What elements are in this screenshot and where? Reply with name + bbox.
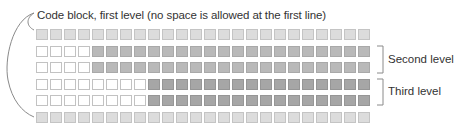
code-cell — [260, 29, 272, 40]
code-cell — [36, 29, 48, 40]
code-cell — [92, 112, 104, 123]
code-cell — [358, 46, 370, 57]
indent-cell — [36, 79, 48, 90]
code-cell — [176, 79, 188, 90]
code-cell — [148, 29, 160, 40]
code-cell — [120, 62, 132, 73]
code-cell — [344, 29, 356, 40]
indent-cell — [64, 95, 76, 106]
code-cell — [190, 95, 202, 106]
code-cell — [78, 112, 90, 123]
code-cell — [260, 112, 272, 123]
code-cell — [344, 95, 356, 106]
code-cell — [218, 62, 230, 73]
code-cell — [302, 79, 314, 90]
code-cell — [260, 79, 272, 90]
code-cell — [106, 46, 118, 57]
code-cell — [176, 46, 188, 57]
code-cell — [148, 112, 160, 123]
code-cell — [176, 95, 188, 106]
code-cell — [232, 112, 244, 123]
code-cell — [302, 112, 314, 123]
code-cell — [120, 46, 132, 57]
code-cell — [148, 46, 160, 57]
code-cell — [274, 46, 286, 57]
indent-cell — [106, 79, 118, 90]
code-cell — [344, 62, 356, 73]
second-level-label: Second level — [388, 53, 454, 65]
code-cell — [162, 112, 174, 123]
code-cell — [162, 29, 174, 40]
code-cell — [246, 79, 258, 90]
code-cell — [134, 46, 146, 57]
code-cell — [358, 79, 370, 90]
code-cell — [190, 79, 202, 90]
code-cell — [274, 79, 286, 90]
indent-cell — [134, 79, 146, 90]
code-cell — [330, 79, 342, 90]
third-level-bracket — [377, 79, 383, 105]
code-cell — [246, 112, 258, 123]
code-cell — [204, 112, 216, 123]
indent-cell — [64, 62, 76, 73]
indent-cell — [64, 46, 76, 57]
indent-cell — [36, 46, 48, 57]
code-cell — [302, 29, 314, 40]
code-cell — [260, 62, 272, 73]
code-cell — [176, 62, 188, 73]
code-cell — [288, 62, 300, 73]
code-cell — [316, 29, 328, 40]
code-cell — [218, 95, 230, 106]
code-cell — [204, 62, 216, 73]
code-cell — [204, 95, 216, 106]
code-cell — [302, 46, 314, 57]
indent-cell — [78, 79, 90, 90]
indent-cell — [50, 46, 62, 57]
code-cell — [288, 95, 300, 106]
code-cell — [218, 79, 230, 90]
code-cell — [358, 95, 370, 106]
code-cell — [78, 29, 90, 40]
code-cell — [204, 29, 216, 40]
code-cell — [330, 29, 342, 40]
code-cell — [106, 29, 118, 40]
row-third-level-2 — [36, 95, 372, 108]
code-cell — [330, 62, 342, 73]
indent-cell — [92, 79, 104, 90]
code-cell — [358, 112, 370, 123]
code-cell — [190, 112, 202, 123]
code-cell — [120, 29, 132, 40]
code-cell — [330, 46, 342, 57]
code-cell — [218, 112, 230, 123]
code-cell — [134, 62, 146, 73]
code-cell — [232, 79, 244, 90]
code-cell — [92, 29, 104, 40]
code-cell — [274, 112, 286, 123]
indent-cell — [92, 95, 104, 106]
code-cell — [190, 29, 202, 40]
indent-cell — [78, 95, 90, 106]
code-cell — [260, 46, 272, 57]
indent-cell — [36, 95, 48, 106]
code-cell — [36, 112, 48, 123]
code-cell — [64, 29, 76, 40]
code-cell — [246, 62, 258, 73]
indent-cell — [50, 95, 62, 106]
code-cell — [162, 79, 174, 90]
indent-cell — [50, 62, 62, 73]
code-cell — [134, 112, 146, 123]
code-cell — [92, 46, 104, 57]
code-cell — [232, 62, 244, 73]
row-first-level-top — [36, 29, 372, 42]
indent-cell — [36, 62, 48, 73]
code-cell — [176, 29, 188, 40]
code-cell — [162, 46, 174, 57]
code-cell — [274, 95, 286, 106]
code-cell — [134, 29, 146, 40]
code-cell — [274, 29, 286, 40]
indent-cell — [120, 95, 132, 106]
code-cell — [120, 112, 132, 123]
code-cell — [190, 62, 202, 73]
code-cell — [64, 112, 76, 123]
row-second-level-1 — [36, 46, 372, 59]
